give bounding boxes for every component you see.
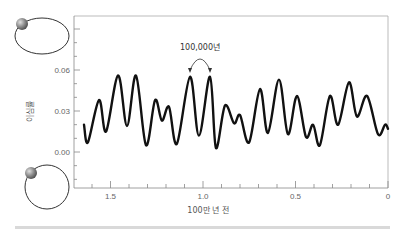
planet-icon xyxy=(25,167,37,179)
planet-icon xyxy=(16,18,28,30)
x-axis: 1.51.00.50 xyxy=(74,181,391,201)
y-tick-label: 0.06 xyxy=(54,66,70,75)
y-tick-label: 0.00 xyxy=(54,148,70,157)
circular-orbit-icon xyxy=(25,165,69,209)
y-axis-title: 이심률 xyxy=(25,101,35,122)
y-tick-label: 0.03 xyxy=(54,107,70,116)
x-tick-label: 0.5 xyxy=(290,192,302,201)
x-tick-label: 1.5 xyxy=(105,192,117,201)
cycle-annotation: 100,000년 xyxy=(180,42,220,73)
x-axis-title: 100만 년 전 xyxy=(187,205,228,215)
cycle-arrow-icon xyxy=(190,59,210,70)
eccentricity-chart: 0.000.030.06 1.51.00.50 이심률 100만 년 전 100… xyxy=(0,0,403,237)
arrowhead-icon xyxy=(188,68,192,73)
arrowhead-icon xyxy=(208,68,212,73)
bottom-divider xyxy=(15,226,390,229)
eccentricity-line xyxy=(84,75,388,148)
x-tick-label: 0 xyxy=(386,192,391,201)
plot-frame xyxy=(74,16,388,188)
elliptical-orbit-icon xyxy=(15,18,69,54)
cycle-annotation-label: 100,000년 xyxy=(180,42,220,52)
x-tick-label: 1.0 xyxy=(197,192,209,201)
